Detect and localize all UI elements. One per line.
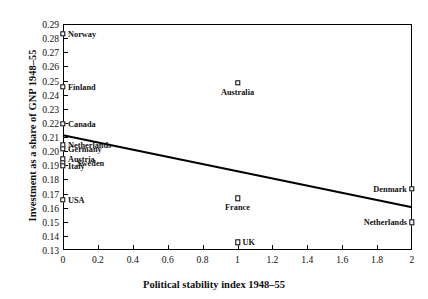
x-tick-mark: [307, 245, 308, 250]
x-tick-mark: [377, 245, 378, 250]
x-tick-label: 1: [235, 254, 240, 265]
y-tick-label: 0.17: [25, 188, 59, 199]
x-tick-mark: [133, 245, 134, 250]
data-point-marker: [60, 146, 65, 151]
x-tick-label: 2: [410, 254, 415, 265]
y-tick-mark: [63, 236, 68, 237]
data-point-marker: [60, 31, 65, 36]
x-tick-mark: [203, 245, 204, 250]
y-tick-mark: [63, 52, 68, 53]
plot-area: [63, 24, 412, 250]
x-tick-label: 0: [61, 254, 66, 265]
y-tick-label: 0.16: [25, 202, 59, 213]
data-point-marker: [60, 121, 65, 126]
y-tick-label: 0.29: [25, 19, 59, 30]
x-tick-label: 0.8: [197, 254, 209, 265]
x-tick-label: 1.8: [371, 254, 383, 265]
y-tick-mark: [63, 222, 68, 223]
y-tick-mark: [63, 208, 68, 209]
x-tick-mark: [272, 245, 273, 250]
data-point-marker: [409, 186, 414, 191]
y-tick-label: 0.14: [25, 230, 59, 241]
data-point-marker: [60, 163, 65, 168]
x-tick-label: 1.2: [266, 254, 278, 265]
data-point-label: Canada: [68, 119, 96, 128]
y-tick-label: 0.25: [25, 75, 59, 86]
y-tick-label: 0.13: [25, 245, 59, 256]
y-tick-label: 0.19: [25, 160, 59, 171]
y-tick-label: 0.20: [25, 146, 59, 157]
data-point-label: Italy: [68, 161, 85, 170]
scatter-plot-figure: Investment as a share of GNP 1948–55 0.1…: [0, 0, 428, 299]
y-tick-mark: [63, 109, 68, 110]
x-tick-mark: [342, 245, 343, 250]
y-tick-label: 0.18: [25, 174, 59, 185]
data-point-label: Finland: [68, 82, 96, 91]
data-point-marker: [60, 84, 65, 89]
y-tick-mark: [63, 95, 68, 96]
x-tick-label: 0.6: [162, 254, 174, 265]
y-tick-mark: [63, 66, 68, 67]
x-tick-mark: [168, 245, 169, 250]
y-tick-label: 0.23: [25, 103, 59, 114]
x-tick-label: 1.4: [301, 254, 313, 265]
y-tick-label: 0.27: [25, 47, 59, 58]
x-tick-label: 0.2: [92, 254, 104, 265]
data-point-marker: [60, 197, 65, 202]
data-point-label: Germany: [68, 145, 102, 154]
data-point-label: France: [225, 203, 250, 212]
x-axis-title: Political stability index 1948–55: [0, 279, 428, 290]
y-tick-label: 0.22: [25, 117, 59, 128]
y-tick-label: 0.24: [25, 89, 59, 100]
data-point-label: Denmark: [373, 184, 407, 193]
y-tick-label: 0.21: [25, 132, 59, 143]
y-tick-mark: [63, 179, 68, 180]
x-tick-label: 1.6: [336, 254, 348, 265]
x-tick-mark: [98, 245, 99, 250]
data-point-label: Norway: [68, 29, 96, 38]
data-point-marker: [409, 220, 414, 225]
data-point-label: Netherlands: [364, 218, 407, 227]
data-point-label: USA: [68, 195, 85, 204]
data-point-marker: [235, 240, 240, 245]
y-tick-label: 0.26: [25, 61, 59, 72]
x-tick-mark: [238, 245, 239, 250]
data-point-label: Australia: [221, 88, 254, 97]
y-tick-mark: [63, 137, 68, 138]
data-point-marker: [235, 196, 240, 201]
data-point-marker: [235, 80, 240, 85]
y-tick-label: 0.28: [25, 33, 59, 44]
y-tick-mark: [63, 194, 68, 195]
x-tick-label: 0.4: [127, 254, 139, 265]
data-point-label: UK: [243, 238, 255, 247]
y-tick-mark: [63, 81, 68, 82]
y-tick-label: 0.15: [25, 216, 59, 227]
